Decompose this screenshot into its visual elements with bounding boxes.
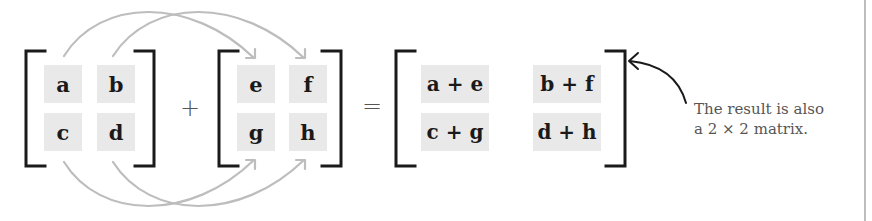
- result-cell-c-plus-g: c + g: [421, 113, 489, 151]
- matrix-a-left-bracket: [26, 51, 45, 166]
- matrix-a-cell-a: a: [44, 65, 82, 103]
- matrix-a-cell-b: b: [97, 65, 135, 103]
- matrix-a-cell-c: c: [44, 113, 82, 151]
- matrix-b-cell-h: h: [289, 113, 327, 151]
- matrix-b-left-bracket: [219, 51, 238, 166]
- annotation-line-2: a 2 × 2 matrix.: [694, 119, 824, 139]
- result-right-bracket: [606, 51, 625, 166]
- matrix-a-right-bracket: [135, 51, 154, 166]
- annotation-line-1: The result is also: [694, 99, 824, 119]
- result-left-bracket: [396, 51, 415, 166]
- matrix-a-cell-d: d: [97, 113, 135, 151]
- matrix-b-cell-e: e: [237, 65, 275, 103]
- matrix-b-cell-f: f: [289, 65, 327, 103]
- matrix-b-cell-g: g: [237, 113, 275, 151]
- annotation-curve-arrow: [630, 61, 686, 103]
- result-cell-a-plus-e: a + e: [421, 65, 489, 103]
- result-cell-d-plus-h: d + h: [533, 113, 601, 151]
- equals-operator: =: [362, 94, 382, 118]
- plus-operator: +: [180, 96, 200, 120]
- result-cell-b-plus-f: b + f: [533, 65, 601, 103]
- annotation-text: The result is also a 2 × 2 matrix.: [694, 99, 824, 139]
- page-divider: [864, 0, 866, 221]
